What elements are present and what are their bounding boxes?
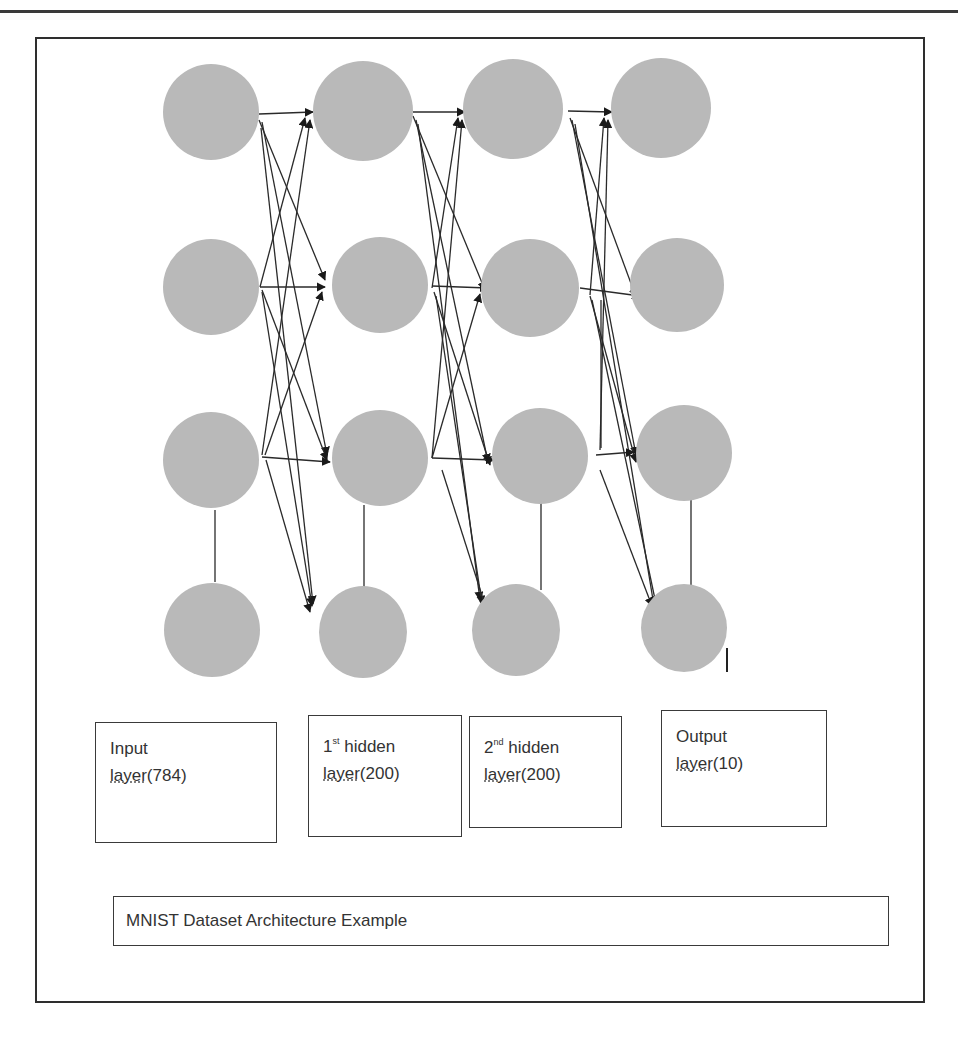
- label-line1: 2nd hidden: [484, 729, 621, 761]
- label-line2: layer(10): [676, 750, 826, 777]
- node: [611, 58, 711, 158]
- label-input-layer: Input layer(784): [95, 722, 277, 843]
- label-line1: 1st hidden: [323, 728, 461, 760]
- node: [492, 408, 588, 504]
- node: [164, 583, 260, 677]
- node: [481, 239, 579, 337]
- node: [332, 237, 428, 333]
- node: [163, 239, 259, 335]
- node: [641, 584, 727, 672]
- nodes-input-layer: [163, 64, 260, 677]
- node: [463, 59, 563, 159]
- nodes-output-layer: [611, 58, 732, 672]
- label-hidden2-layer: 2nd hidden layer(200): [469, 716, 622, 828]
- figure-caption: MNIST Dataset Architecture Example: [113, 896, 889, 946]
- node: [163, 412, 259, 508]
- node: [630, 238, 724, 332]
- label-output-layer: Output layer(10): [661, 710, 827, 827]
- node: [332, 410, 428, 506]
- node: [636, 405, 732, 501]
- label-line2: layer(200): [484, 761, 621, 788]
- label-line2: layer(200): [323, 760, 461, 787]
- nodes-hidden2-layer: [463, 59, 588, 676]
- nodes-hidden1-layer: [313, 61, 428, 678]
- stray-tick-mark: [726, 648, 728, 672]
- node: [313, 61, 413, 161]
- node: [319, 586, 407, 678]
- label-line1: Output: [676, 723, 826, 750]
- edges-hidden2-to-output: [568, 111, 656, 606]
- label-line1: Input: [110, 735, 276, 762]
- node: [163, 64, 259, 160]
- label-line2: layer(784): [110, 762, 276, 789]
- edges-hidden1-to-hidden2: [413, 112, 494, 608]
- network-diagram: [0, 0, 958, 1044]
- node: [472, 584, 560, 676]
- label-hidden1-layer: 1st hidden layer(200): [308, 715, 462, 837]
- edges-input-to-hidden1: [259, 112, 330, 612]
